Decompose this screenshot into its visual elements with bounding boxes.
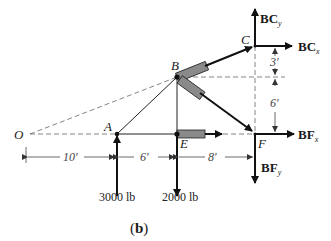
member-AB — [117, 77, 177, 134]
figure-caption: (b) — [130, 220, 148, 237]
label-BFx: BFx — [298, 127, 319, 144]
label-E: E — [179, 136, 188, 151]
load-label-A: 3000 lb — [99, 190, 135, 204]
label-BCy: BCy — [260, 11, 282, 28]
cut-member-BF — [177, 76, 205, 100]
label-O: O — [14, 127, 24, 142]
truss-members — [117, 77, 177, 134]
joint-F — [254, 133, 257, 136]
joint-B — [174, 74, 179, 79]
dimension-3ft: 3′ — [269, 55, 279, 69]
label-BFy: BFy — [261, 160, 282, 177]
reference-lines — [30, 46, 285, 134]
joint-A — [115, 132, 119, 136]
free-body-diagram: 10′ 6′ 8′ 3′ 6′ O A B C E F BCy BCx BFx … — [0, 0, 331, 241]
label-C: C — [241, 32, 250, 47]
label-A: A — [103, 119, 112, 134]
dimension-10ft: 10′ — [63, 150, 78, 164]
load-label-E: 2000 lb — [162, 190, 198, 204]
joint-C — [254, 45, 257, 48]
dimension-6ft-vertical: 6′ — [270, 96, 279, 110]
force-arrow-BC — [205, 47, 252, 66]
label-B: B — [171, 58, 179, 73]
force-arrow-BF — [200, 93, 252, 131]
label-F: F — [257, 136, 267, 151]
dimension-8ft: 8′ — [208, 150, 217, 164]
dimension-6ft-AE: 6′ — [140, 150, 149, 164]
joint-E — [174, 131, 179, 136]
label-BCx: BCx — [298, 39, 320, 56]
